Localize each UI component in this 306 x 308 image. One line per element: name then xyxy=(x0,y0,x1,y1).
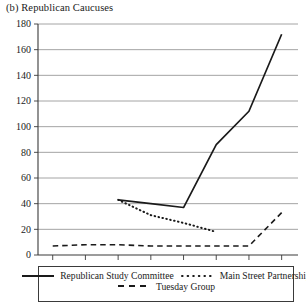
series-line xyxy=(118,34,282,207)
legend-label-republican-study-committee: Republican Study Committee xyxy=(60,271,174,281)
figure-republican-caucuses: (b) Republican Caucuses 0204060801001201… xyxy=(0,0,306,308)
y-tick-label: 180 xyxy=(16,18,31,29)
legend-row-primary: Republican Study Committee Main Street P… xyxy=(39,271,293,281)
legend-item-republican-study-committee: Republican Study Committee xyxy=(21,271,174,281)
y-tick-label: 100 xyxy=(16,121,31,132)
plot-area: 0204060801001201401601801051061071081091… xyxy=(0,18,306,263)
legend-label-main-street-partnership: Main Street Partnership xyxy=(220,271,306,281)
y-tick-label: 120 xyxy=(16,95,31,106)
y-tick-label: 60 xyxy=(21,172,31,183)
y-tick-label: 40 xyxy=(21,198,31,209)
y-tick-label: 80 xyxy=(21,147,31,158)
legend-swatch-dotted-icon xyxy=(181,272,215,280)
legend-item-main-street-partnership: Main Street Partnership xyxy=(181,271,306,281)
y-tick-label: 20 xyxy=(21,224,31,235)
legend-row-secondary: Tuesday Group xyxy=(39,282,293,292)
chart-title: (b) Republican Caucuses xyxy=(6,2,113,13)
series-line xyxy=(118,200,216,232)
legend-swatch-solid-icon xyxy=(21,272,55,280)
line-chart-svg: 0204060801001201401601801051061071081091… xyxy=(0,18,306,263)
y-tick-label: 160 xyxy=(16,44,31,55)
legend-label-tuesday-group: Tuesday Group xyxy=(156,282,215,292)
legend-item-tuesday-group: Tuesday Group xyxy=(117,282,215,292)
y-tick-label: 140 xyxy=(16,70,31,81)
y-tick-label: 0 xyxy=(26,249,31,260)
chart-legend: Republican Study Committee Main Street P… xyxy=(38,266,294,302)
legend-swatch-dashed-icon xyxy=(117,282,151,290)
